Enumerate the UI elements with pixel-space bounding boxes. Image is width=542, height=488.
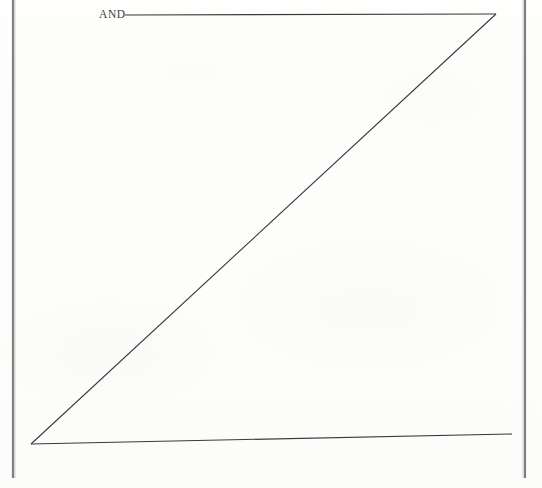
baseline-line bbox=[31, 434, 512, 444]
diagonal-hypotenuse bbox=[31, 14, 496, 444]
top-horizontal-line bbox=[125, 14, 496, 15]
scanned-page: AND bbox=[0, 0, 542, 488]
line-figure bbox=[0, 0, 542, 488]
and-label: AND bbox=[99, 7, 126, 21]
